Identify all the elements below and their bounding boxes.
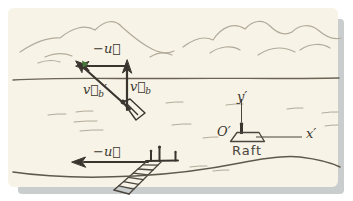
dock-ladder	[114, 162, 161, 194]
vb-vector-label: v⃗b	[130, 80, 151, 96]
figure-canvas: −u⃗ v⃗b′ v⃗b −u⃗ y′ O′ x′ Raft	[0, 0, 353, 201]
dock-posts	[150, 145, 177, 161]
water-ripples	[48, 102, 338, 171]
boat-sketch	[121, 99, 145, 120]
raft-caption: Raft	[232, 143, 262, 158]
dock-sketch	[72, 145, 178, 194]
origin-label: O′	[217, 125, 231, 138]
figure-sketch	[0, 0, 353, 201]
neg-u-vector-label: −u⃗	[93, 42, 120, 55]
dock-neg-u-vector-label: −u⃗	[93, 145, 120, 158]
raft-frame-sketch	[231, 99, 303, 142]
x-axis-label: x′	[306, 127, 316, 140]
mountains	[20, 21, 341, 63]
y-axis-label: y′	[237, 90, 247, 103]
far-shoreline	[13, 78, 339, 80]
vb-prime-vector-label: v⃗b′	[83, 83, 107, 99]
